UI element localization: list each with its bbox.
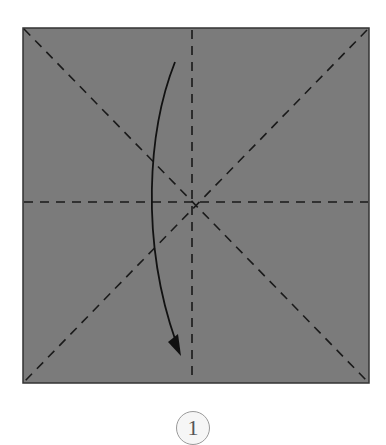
step-number-badge: 1	[176, 411, 210, 445]
